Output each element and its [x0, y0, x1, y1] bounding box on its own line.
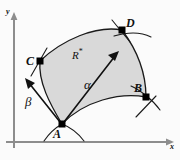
vertex-dot-b[interactable]: [143, 94, 150, 101]
vector-beta-label: β: [25, 95, 31, 108]
x-axis-label: x: [170, 143, 174, 151]
region-label-superscript: *: [79, 47, 83, 56]
figure-canvas: y x A B C D R* α β: [0, 0, 180, 160]
vertex-label-b: B: [134, 82, 142, 94]
vector-beta-arrowhead: [25, 78, 35, 89]
vertex-label-c: C: [26, 55, 34, 67]
region-r-star-shape: [40, 29, 146, 124]
vertex-dot-d[interactable]: [119, 27, 126, 34]
vertex-label-a: A: [53, 128, 61, 140]
vertex-label-d: D: [126, 17, 135, 29]
y-axis-arrowhead: [11, 12, 18, 20]
region-label: R*: [72, 48, 83, 61]
y-axis-label: y: [6, 8, 10, 16]
vertex-dot-c[interactable]: [37, 58, 44, 65]
region-label-text: R: [72, 49, 79, 61]
vector-alpha-label: α: [84, 78, 91, 91]
